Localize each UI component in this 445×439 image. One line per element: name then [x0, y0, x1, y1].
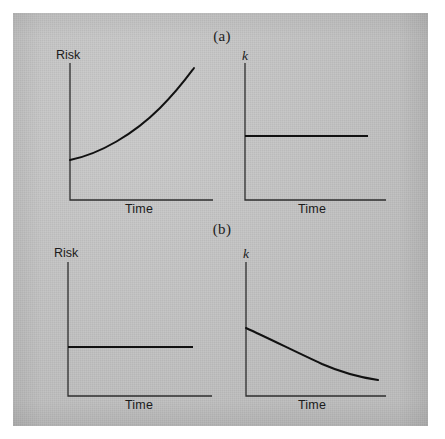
- y-axis-label-k-bottom: k: [243, 246, 249, 262]
- y-axis-label-risk-bottom: Risk: [54, 246, 78, 260]
- row-caption-b: (b): [213, 221, 231, 238]
- x-axis-label-time-top-right: Time: [298, 202, 326, 216]
- y-axis-label-risk-top: Risk: [56, 48, 80, 62]
- figure-root: (a) (b) Risk Time k Time Risk Time k Tim…: [0, 0, 445, 439]
- figure-plate-background: [13, 13, 428, 426]
- x-axis-label-time-bottom-left: Time: [125, 398, 153, 412]
- row-caption-a: (a): [213, 28, 231, 45]
- x-axis-label-time-top-left: Time: [125, 202, 153, 216]
- x-axis-label-time-bottom-right: Time: [298, 398, 326, 412]
- y-axis-label-k-top: k: [242, 48, 248, 64]
